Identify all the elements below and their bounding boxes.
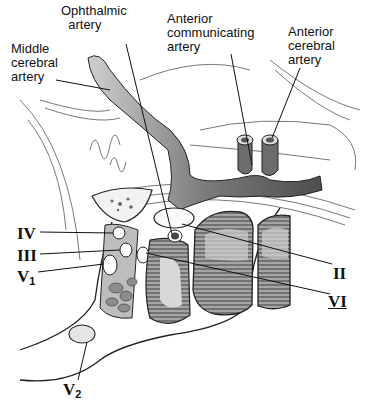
label-v1-subscript: 1 — [29, 275, 35, 287]
label-cranial-nerve-v1: V1 — [17, 268, 35, 290]
carotid-siphon — [146, 238, 190, 323]
optic-nerve — [154, 208, 194, 228]
cavernous-sinus-diagram: Ophthalmic artery Middle cerebral artery… — [0, 0, 366, 406]
nerve-v1-cross-section — [103, 255, 117, 275]
internal-carotid-artery — [88, 56, 322, 210]
ophthalmic-artery-section — [168, 230, 182, 242]
nerve-v2-cross-section — [69, 325, 95, 343]
label-cranial-nerve-v2: V2 — [63, 381, 81, 403]
nerve-iii-cross-section — [120, 243, 132, 257]
label-anterior-cerebral-artery: Anterior cerebral artery — [288, 25, 335, 67]
anterior-clinoid — [92, 188, 152, 222]
label-ophthalmic-artery: Ophthalmic artery — [61, 4, 127, 32]
label-middle-cerebral-artery: Middle cerebral artery — [11, 42, 58, 84]
label-cranial-nerve-iii: III — [17, 247, 37, 264]
label-cranial-nerve-vi: VI — [328, 293, 347, 310]
brain-surface-sketch — [20, 60, 360, 260]
label-cranial-nerve-iv: IV — [17, 225, 36, 242]
label-v1-main: V — [17, 267, 29, 286]
label-v2-main: V — [63, 380, 75, 399]
pituitary-gland — [193, 211, 290, 315]
nerve-iv-cross-section — [113, 227, 125, 239]
label-v2-subscript: 2 — [75, 388, 81, 400]
label-cranial-nerve-ii: II — [333, 265, 346, 282]
label-anterior-communicating-artery: Anterior communicating artery — [167, 12, 254, 54]
lateral-wall-nerves — [100, 224, 149, 318]
